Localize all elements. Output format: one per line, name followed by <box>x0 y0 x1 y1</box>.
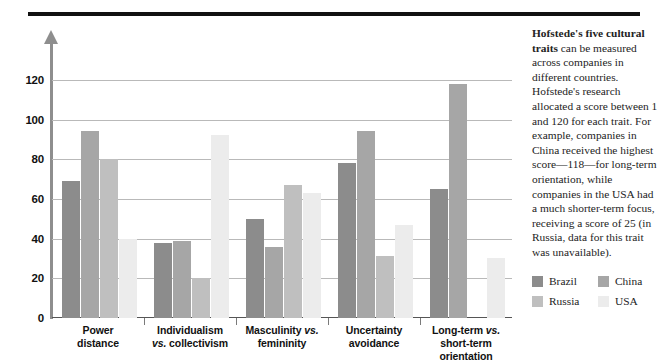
legend-row: RussiaUSA <box>532 291 664 311</box>
bar <box>395 225 413 318</box>
bar <box>173 241 191 318</box>
bar-group <box>236 60 328 318</box>
y-axis-tick-label: 60 <box>32 193 44 205</box>
legend-swatch-icon <box>598 296 609 307</box>
legend-swatch-icon <box>532 296 543 307</box>
y-axis-tick-label: 40 <box>32 233 44 245</box>
bar <box>487 258 505 318</box>
bar <box>100 159 118 318</box>
x-axis-label: Individualismvs. collectivism <box>144 324 236 350</box>
x-axis-label: Powerdistance <box>52 324 144 350</box>
bar-group <box>144 60 236 318</box>
bar <box>62 181 80 318</box>
legend-row: BrazilChina <box>532 271 664 291</box>
bar <box>430 189 448 318</box>
chart-legend: BrazilChinaRussiaUSA <box>532 271 664 311</box>
legend-swatch-icon <box>532 276 543 287</box>
y-axis-tick-labels: 020406080100120 <box>0 60 44 318</box>
bar-group <box>420 60 512 318</box>
bar <box>154 243 172 318</box>
bar <box>376 256 394 318</box>
top-rule-divider <box>28 12 640 16</box>
bar-chart: 020406080100120 PowerdistanceIndividuali… <box>0 22 520 353</box>
bar <box>265 247 283 318</box>
y-axis-tick-label: 80 <box>32 153 44 165</box>
bar <box>81 131 99 318</box>
x-axis-label: Masculinity vs.femininity <box>236 324 328 350</box>
plot-area <box>52 60 512 318</box>
bar <box>338 163 356 318</box>
legend-label: China <box>615 275 642 287</box>
legend-label: Russia <box>549 295 579 307</box>
bar <box>284 185 302 318</box>
y-axis-arrow-icon <box>44 30 58 44</box>
legend-item-china: China <box>598 275 664 287</box>
bar <box>211 135 229 318</box>
bar <box>357 131 375 318</box>
x-axis-label: Long-term vs.short-termorientation <box>420 324 512 363</box>
y-axis-tick-label: 20 <box>32 272 44 284</box>
x-axis-category-labels: PowerdistanceIndividualismvs. collectivi… <box>52 324 512 364</box>
legend-label: USA <box>615 295 638 307</box>
bar-group <box>328 60 420 318</box>
caption-paragraph: Hofstede's five cultural traits can be m… <box>532 26 658 260</box>
bar-group <box>52 60 144 318</box>
y-axis-tick-label: 120 <box>25 74 44 86</box>
bar <box>303 193 321 318</box>
legend-swatch-icon <box>598 276 609 287</box>
bar <box>192 278 210 318</box>
y-axis-tick-label: 0 <box>38 312 44 324</box>
bar <box>246 219 264 318</box>
legend-item-brazil: Brazil <box>532 275 598 287</box>
legend-item-russia: Russia <box>532 295 598 307</box>
y-axis-tick-label: 100 <box>25 114 44 126</box>
legend-item-usa: USA <box>598 295 664 307</box>
bar <box>449 84 467 318</box>
legend-label: Brazil <box>549 275 577 287</box>
caption-body: can be measured across companies in diff… <box>532 42 657 258</box>
x-axis-label: Uncertaintyavoidance <box>328 324 420 350</box>
bar <box>119 239 137 318</box>
caption-text: Hofstede's five cultural traits can be m… <box>532 26 658 260</box>
